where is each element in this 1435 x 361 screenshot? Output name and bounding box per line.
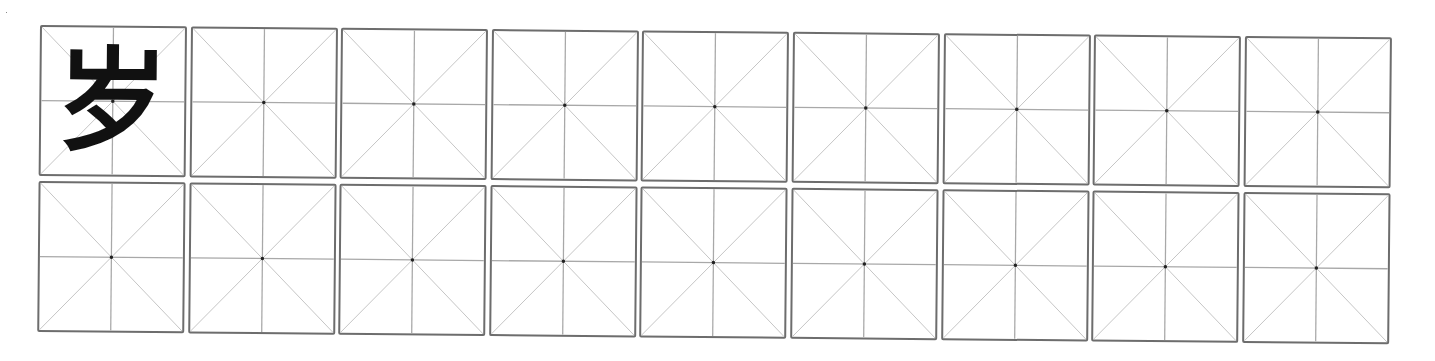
grid-cell-r2-c9 — [1242, 192, 1390, 344]
mizige-guides-icon — [1245, 38, 1389, 186]
mizige-guides-icon — [1244, 194, 1388, 342]
mizige-guides-icon — [943, 191, 1087, 339]
stray-mark — [6, 12, 7, 13]
example-character: 岁 — [41, 27, 185, 175]
mizige-guides-icon — [340, 186, 484, 334]
mizige-guides-icon — [492, 31, 636, 179]
grid-cell-r2-c3 — [338, 184, 486, 336]
mizige-guides-icon — [792, 190, 936, 338]
grid-cell-r2-c2 — [188, 182, 336, 334]
grid-cell-r2-c1 — [37, 181, 185, 333]
mizige-guides-icon — [944, 35, 1088, 183]
mizige-guides-icon — [1093, 193, 1237, 341]
grid-cell-r1-c1: 岁 — [39, 25, 187, 177]
mizige-guides-icon — [491, 187, 635, 335]
grid-cell-r1-c3 — [340, 28, 488, 180]
mizige-guides-icon — [642, 188, 786, 336]
mizige-guides-icon — [1095, 37, 1239, 185]
mizige-guides-icon — [39, 183, 183, 331]
grid-cell-r2-c5 — [640, 186, 788, 338]
mizige-guides-icon — [794, 34, 938, 182]
grid-cell-r1-c6 — [792, 32, 940, 184]
mizige-guides-icon — [342, 30, 486, 178]
mizige-guides-icon — [190, 184, 334, 332]
grid-cell-r1-c9 — [1243, 36, 1391, 188]
grid-cell-r1-c8 — [1093, 35, 1241, 187]
grid-cell-r2-c6 — [790, 188, 938, 340]
grid-cell-r2-c7 — [941, 189, 1089, 341]
practice-grid-sheet: 岁 — [37, 25, 1400, 349]
grid-cell-r2-c8 — [1091, 191, 1239, 343]
grid-cell-r1-c2 — [189, 26, 337, 178]
grid-cell-r1-c4 — [490, 29, 638, 181]
mizige-guides-icon — [191, 28, 335, 176]
mizige-guides-icon — [643, 32, 787, 180]
grid-cell-r1-c5 — [641, 30, 789, 182]
grid-cell-r2-c4 — [489, 185, 637, 337]
grid-cell-r1-c7 — [942, 33, 1090, 185]
